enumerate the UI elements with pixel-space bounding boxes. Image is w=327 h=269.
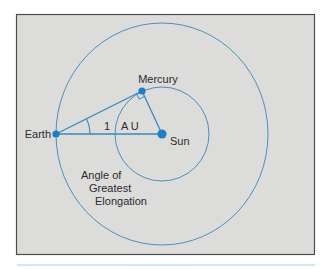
mercury-dot <box>138 87 145 94</box>
earth-dot <box>52 130 59 137</box>
angle-label-line3: Elongation <box>95 195 147 207</box>
greatest-elongation-diagram: Earth Mercury Sun 1 A U Angle of Greates… <box>0 0 327 269</box>
distance-number-label: 1 <box>104 120 110 132</box>
sun-label: Sun <box>170 135 190 147</box>
earth-label: Earth <box>25 128 51 140</box>
mercury-label: Mercury <box>138 73 178 85</box>
sun-dot <box>157 129 166 138</box>
angle-label-line1: Angle of <box>81 169 122 181</box>
angle-label-line2: Greatest <box>89 182 131 194</box>
distance-unit-label: A U <box>121 120 139 132</box>
